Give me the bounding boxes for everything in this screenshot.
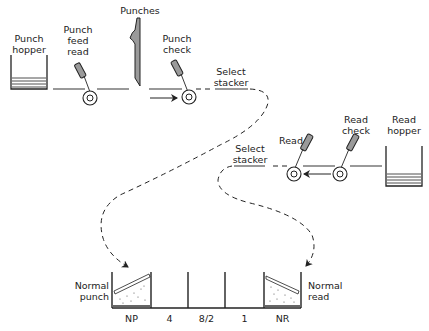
read-card-path xyxy=(218,166,314,266)
pocket-1: 1 xyxy=(225,313,264,324)
label-line: hopper xyxy=(4,44,54,55)
normal-read-cards xyxy=(266,276,299,303)
punch-check-sensor xyxy=(171,60,196,104)
stacker-bins xyxy=(112,272,301,308)
label-line: stacker xyxy=(230,154,270,165)
punch-feed-read-sensor xyxy=(74,62,97,105)
label-line: stacker xyxy=(211,77,251,88)
label-line: Punch xyxy=(57,24,99,35)
punch-hopper xyxy=(11,55,47,89)
punch-feed-read-label: Punch feed read xyxy=(57,24,99,57)
label-line: Normal xyxy=(308,280,351,291)
read-check-sensor xyxy=(333,134,359,181)
label-line: Select xyxy=(230,143,270,154)
pocket-4: 4 xyxy=(151,313,188,324)
punch-card-path xyxy=(101,89,268,267)
read-label: Read xyxy=(276,135,306,146)
normal-read-label: Normal read xyxy=(308,280,351,302)
read-hopper-label: Read hopper xyxy=(383,114,425,136)
read-hopper xyxy=(386,146,422,186)
label-line: Read xyxy=(339,114,373,125)
read-select-stacker-label: Select stacker xyxy=(230,143,270,165)
label-line: Punch xyxy=(4,33,54,44)
label-line: check xyxy=(339,125,373,136)
label-line: check xyxy=(155,44,199,55)
label-line: Normal xyxy=(66,280,109,291)
punch-select-stacker-label: Select stacker xyxy=(211,66,251,88)
label-line: Punch xyxy=(155,33,199,44)
punches-block xyxy=(130,18,140,86)
normal-punch-label: Normal punch xyxy=(66,280,109,302)
punch-check-label: Punch check xyxy=(155,33,199,55)
punches-label: Punches xyxy=(115,5,165,16)
label-line: punch xyxy=(66,291,109,302)
normal-punch-cards xyxy=(114,274,150,304)
label-line: hopper xyxy=(383,125,425,136)
label-line: read xyxy=(308,291,351,302)
pocket-8-2: 8/2 xyxy=(188,313,225,324)
label-line: read xyxy=(57,46,99,57)
pocket-nr: NR xyxy=(264,313,301,324)
label-line: Read xyxy=(383,114,425,125)
pocket-np: NP xyxy=(112,313,151,324)
read-check-label: Read check xyxy=(339,114,373,136)
punch-hopper-label: Punch hopper xyxy=(4,33,54,55)
label-line: feed xyxy=(57,35,99,46)
label-line: Select xyxy=(211,66,251,77)
